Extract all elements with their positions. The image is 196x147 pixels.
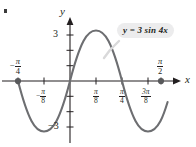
y-axis-label: y <box>60 6 65 17</box>
x-tick-denominator: 8 <box>40 97 46 105</box>
x-axis-label: x <box>185 74 190 85</box>
x-tick-denominator: 8 <box>141 97 151 105</box>
x-tick-label-three-pi-over-8: 3π8 <box>141 88 151 104</box>
callout-leader-line <box>104 41 119 58</box>
x-tick-label-neg-pi-over-8: −π8 <box>36 88 46 104</box>
x-tick-label-pi-over-2: π2 <box>157 57 163 75</box>
equation-callout-label: y = 3 sin 4x <box>117 23 174 38</box>
x-axis <box>2 78 181 85</box>
x-tick-denominator: 4 <box>15 67 21 76</box>
x-tick-denominator: 2 <box>157 67 163 76</box>
y-tick-label-3: 3 <box>53 29 58 39</box>
x-tick-denominator: 8 <box>93 97 99 105</box>
endpoint-dot-left <box>15 78 21 84</box>
x-tick-label-neg-pi-over-4: −π4 <box>10 57 21 75</box>
x-tick-label-pi-over-4: π4 <box>119 88 125 104</box>
sine-graph-figure: y x 3 −3 −π4 −π8 π8 π4 3π8 π2 y = 3 sin … <box>0 0 196 147</box>
x-tick-label-pi-over-8: π8 <box>93 88 99 104</box>
x-tick-denominator: 4 <box>119 97 125 105</box>
y-tick-label-neg3: −3 <box>48 121 59 131</box>
endpoint-dot-right <box>158 78 164 84</box>
